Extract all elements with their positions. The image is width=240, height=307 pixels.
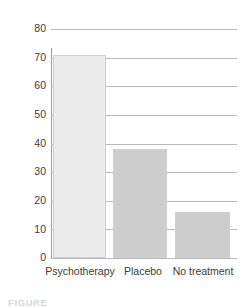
bar-psychotherapy [53, 55, 106, 258]
x-axis-label-placebo: Placebo [119, 265, 167, 277]
gridline [51, 258, 237, 259]
gridline [51, 29, 237, 30]
y-tick-label: 70 [22, 52, 46, 63]
figure-caption: FIGURE [8, 297, 48, 307]
y-tick-label: 0 [22, 252, 46, 263]
bar-no-treatment [175, 212, 230, 258]
bar-placebo [113, 149, 167, 258]
x-axis-label-no-treatment: No treatment [167, 265, 239, 277]
y-tick-label: 60 [22, 80, 46, 91]
y-tick-label: 10 [22, 224, 46, 235]
y-tick-label: 40 [22, 138, 46, 149]
plot-area [51, 29, 237, 258]
y-tick-label: 20 [22, 195, 46, 206]
x-axis-label-psychotherapy: Psychotherapy [42, 265, 118, 277]
y-tick-label: 30 [22, 166, 46, 177]
y-tick-label: 80 [22, 23, 46, 34]
bar-chart-figure: Percent improved 80 70 60 50 40 30 20 10… [0, 0, 240, 307]
y-tick-label: 50 [22, 109, 46, 120]
